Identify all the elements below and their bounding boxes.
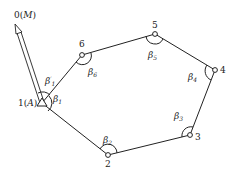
angle-label-b6: β6 <box>87 67 97 78</box>
traverse-diagram: 0(M) 1(A) 2 3 4 5 6 β1 β′1 β6 β5 β4 β3 β… <box>0 0 230 173</box>
angle-label-b5: β5 <box>147 50 157 61</box>
angle-label-b1: β1 <box>52 94 62 105</box>
label-station-4: 4 <box>220 65 226 75</box>
label-station-6: 6 <box>79 39 85 49</box>
edge-3-2 <box>108 135 190 155</box>
arc-b1p <box>38 92 50 95</box>
station-5-icon <box>153 32 158 37</box>
orientation-arrow <box>15 24 44 103</box>
station-3-icon <box>188 133 193 138</box>
label-station-2: 2 <box>105 159 111 169</box>
label-orientation: 0(M) <box>14 10 36 20</box>
edge-2-1 <box>42 103 108 155</box>
label-station-1: 1(A) <box>18 98 37 108</box>
station-6-icon <box>80 53 85 58</box>
label-station-5: 5 <box>152 20 158 30</box>
angle-label-b3: β3 <box>173 111 183 122</box>
angle-label-b2: β2 <box>102 135 112 146</box>
station-2-icon <box>106 153 111 158</box>
angle-label-b1-prime: β′1 <box>44 75 55 87</box>
edge-5-4 <box>155 34 215 70</box>
label-station-3: 3 <box>195 132 201 142</box>
angle-label-b4: β4 <box>187 72 197 83</box>
station-4-icon <box>213 68 218 73</box>
edge-6-5 <box>82 34 155 55</box>
